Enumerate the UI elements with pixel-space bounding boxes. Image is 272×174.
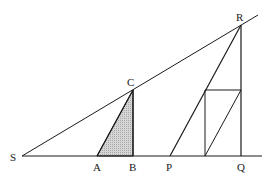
label-a: A <box>93 161 101 173</box>
label-p: P <box>166 161 172 173</box>
label-s: S <box>10 151 16 163</box>
geometry-diagram: S A B C P Q R <box>0 0 272 174</box>
rect-diagonal <box>205 90 241 156</box>
label-q: Q <box>237 161 245 173</box>
label-r: R <box>236 11 244 23</box>
line-s-r <box>22 15 258 156</box>
label-b: B <box>129 161 136 173</box>
label-c: C <box>127 76 134 88</box>
